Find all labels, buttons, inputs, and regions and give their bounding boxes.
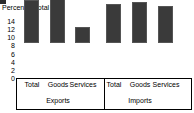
category-label: Services	[144, 81, 188, 89]
category-row: TotalGoodsServicesTotalGoodsServices	[17, 78, 191, 94]
bar	[132, 2, 147, 43]
group-label: Imports	[110, 97, 170, 105]
bar	[106, 4, 121, 43]
group-row: ExportsImports	[17, 94, 191, 109]
group-label: Exports	[28, 97, 88, 105]
bar	[75, 27, 90, 43]
bar	[158, 6, 173, 43]
bar-chart: Percent of total 02468101214 TotalGoodsS…	[0, 0, 194, 113]
category-label-table: TotalGoodsServicesTotalGoodsServices Exp…	[16, 78, 192, 110]
bar-series	[0, 0, 194, 78]
bar	[50, 0, 65, 43]
bar	[24, 0, 39, 43]
